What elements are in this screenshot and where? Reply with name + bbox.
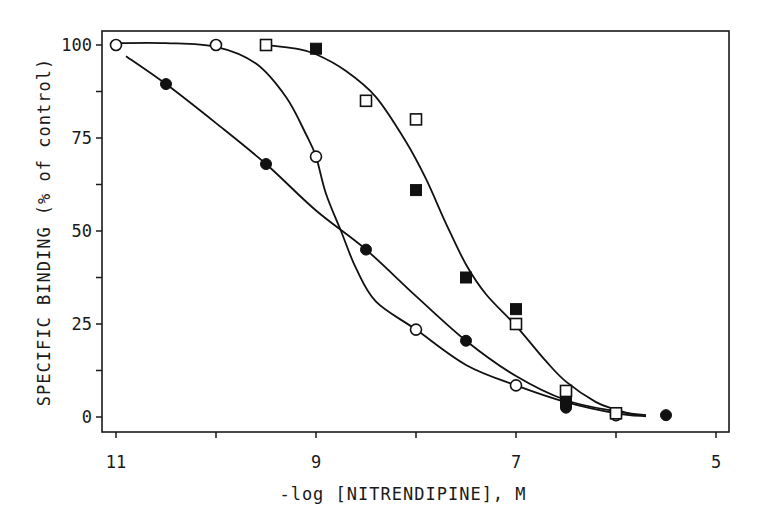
filled-square-marker: [461, 272, 472, 283]
y-tick-label: 75: [72, 128, 92, 148]
fit-curve: [266, 45, 636, 415]
y-tick-label: 100: [61, 35, 92, 55]
x-tick-label: 7: [511, 452, 521, 472]
y-tick-label: 50: [72, 221, 92, 241]
y-axis-ticks: 0255075100: [61, 35, 102, 427]
open-square-marker: [411, 114, 422, 125]
x-tick-label: 5: [711, 452, 721, 472]
plot-frame: [102, 31, 729, 432]
open-square-marker: [561, 385, 572, 396]
filled-square-marker: [311, 43, 322, 54]
data-markers: [111, 40, 672, 421]
open-circle-marker: [311, 151, 322, 162]
open-circle-marker: [411, 324, 422, 335]
open-circle-marker: [111, 40, 122, 51]
filled-circle-marker: [361, 244, 372, 255]
y-axis-title: SPECIFIC BINDING (% of control): [34, 58, 54, 406]
x-axis-ticks: 11975: [106, 432, 721, 472]
y-tick-label: 25: [72, 314, 92, 334]
filled-square-marker: [411, 185, 422, 196]
open-square-marker: [361, 95, 372, 106]
open-square-marker: [261, 40, 272, 51]
fit-curves: [116, 43, 646, 416]
open-square-marker: [511, 319, 522, 330]
open-square-marker: [611, 408, 622, 419]
x-tick-label: 11: [106, 452, 126, 472]
filled-circle-marker: [161, 79, 172, 90]
open-circle-marker: [511, 380, 522, 391]
filled-circle-marker: [461, 335, 472, 346]
plot-border: [102, 31, 729, 432]
fit-curve: [116, 43, 646, 416]
filled-circle-marker: [261, 159, 272, 170]
open-circle-marker: [211, 40, 222, 51]
filled-square-marker: [511, 304, 522, 315]
binding-chart: 11975 0255075100 -log [NITRENDIPINE], M …: [0, 0, 770, 524]
x-axis-title: -log [NITRENDIPINE], M: [279, 484, 526, 504]
x-tick-label: 9: [311, 452, 321, 472]
filled-square-marker: [561, 397, 572, 408]
filled-circle-marker: [661, 410, 672, 421]
y-tick-label: 0: [82, 407, 92, 427]
